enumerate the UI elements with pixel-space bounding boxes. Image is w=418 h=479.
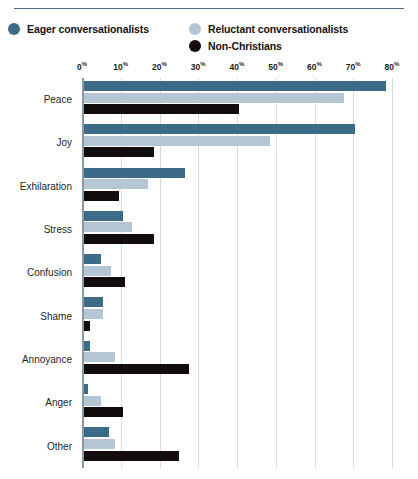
- bar: [84, 309, 103, 319]
- bar: [84, 104, 239, 114]
- bar-group: [84, 297, 404, 332]
- bar-group-row: Stress: [0, 208, 418, 251]
- plot-area: 0%10%20%30%40%50%60%70%80% PeaceJoyExhil…: [0, 62, 418, 472]
- x-axis-tick-labels: 0%10%20%30%40%50%60%70%80%: [0, 62, 418, 76]
- category-label: Joy: [0, 121, 72, 164]
- legend-item-eager-conversationalists[interactable]: Eager conversationalists: [8, 20, 189, 37]
- bar-group-row: Peace: [0, 78, 418, 121]
- bar-group-row: Joy: [0, 121, 418, 164]
- bar: [84, 384, 88, 394]
- bar: [84, 234, 154, 244]
- bar-group-row: Exhilaration: [0, 165, 418, 208]
- bar: [84, 321, 90, 331]
- bar: [84, 81, 386, 91]
- legend-swatch-eager-icon: [8, 23, 20, 35]
- category-label: Anger: [0, 381, 72, 424]
- bar: [84, 451, 179, 461]
- category-label: Confusion: [0, 251, 72, 294]
- legend-label-non-christians: Non-Christians: [208, 40, 282, 52]
- bar: [84, 396, 101, 406]
- bar: [84, 124, 355, 134]
- bar: [84, 147, 154, 157]
- bar: [84, 168, 185, 178]
- x-tick-label: 20%: [152, 62, 167, 72]
- legend-item-non-christians[interactable]: Non-Christians: [189, 37, 389, 54]
- bar: [84, 136, 270, 146]
- bar: [84, 179, 148, 189]
- legend-row-2: Non-Christians: [8, 37, 412, 54]
- bar: [84, 341, 90, 351]
- bar: [84, 352, 115, 362]
- bar: [84, 266, 111, 276]
- bar: [84, 93, 344, 103]
- category-label: Shame: [0, 294, 72, 337]
- bar-group: [84, 427, 404, 462]
- bar: [84, 364, 189, 374]
- bar: [84, 297, 103, 307]
- legend-label-reluctant: Reluctant conversationalists: [208, 23, 348, 35]
- x-tick-label: 30%: [191, 62, 206, 72]
- bar-group: [84, 254, 404, 289]
- x-tick-label: 80%: [385, 62, 400, 72]
- bar-group: [84, 384, 404, 419]
- bar-group: [84, 211, 404, 246]
- bar: [84, 191, 119, 201]
- x-tick-label: 60%: [307, 62, 322, 72]
- bar-group-row: Shame: [0, 294, 418, 337]
- bar-group: [84, 341, 404, 376]
- category-label: Stress: [0, 208, 72, 251]
- category-label: Peace: [0, 78, 72, 121]
- bar: [84, 407, 123, 417]
- x-tick-label: 0%: [77, 62, 87, 72]
- bar: [84, 211, 123, 221]
- bar-group-row: Anger: [0, 381, 418, 424]
- legend-spacer: [8, 37, 189, 54]
- legend-swatch-reluctant-icon: [189, 23, 201, 35]
- bar-group-row: Annoyance: [0, 338, 418, 381]
- chart-legend: Eager conversationalists Reluctant conve…: [8, 20, 412, 54]
- bar-group-row: Confusion: [0, 251, 418, 294]
- bar-group: [84, 81, 404, 116]
- bar-group: [84, 124, 404, 159]
- bar-rows: PeaceJoyExhilarationStressConfusionShame…: [0, 78, 418, 468]
- bar: [84, 427, 109, 437]
- bar: [84, 439, 115, 449]
- bar: [84, 277, 125, 287]
- legend-label-eager: Eager conversationalists: [27, 23, 149, 35]
- category-label: Exhilaration: [0, 165, 72, 208]
- legend-row-1: Eager conversationalists Reluctant conve…: [8, 20, 412, 37]
- x-tick-label: 40%: [230, 62, 245, 72]
- x-tick-label: 10%: [113, 62, 128, 72]
- top-divider-rule: [14, 8, 404, 9]
- bar: [84, 254, 101, 264]
- bar: [84, 222, 132, 232]
- x-tick-label: 50%: [268, 62, 283, 72]
- category-label: Annoyance: [0, 338, 72, 381]
- category-label: Other: [0, 424, 72, 467]
- legend-item-reluctant-conversationalists[interactable]: Reluctant conversationalists: [189, 20, 389, 37]
- grouped-bar-chart: Eager conversationalists Reluctant conve…: [0, 0, 418, 479]
- legend-swatch-non-christians-icon: [189, 40, 201, 52]
- bar-group-row: Other: [0, 424, 418, 467]
- bar-group: [84, 168, 404, 203]
- x-tick-label: 70%: [346, 62, 361, 72]
